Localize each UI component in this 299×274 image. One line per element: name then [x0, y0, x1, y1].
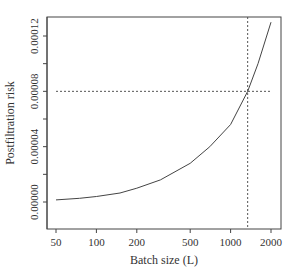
- x-tick-label: 200: [129, 236, 146, 248]
- chart: 0.000000.000040.000080.00012 50100200500…: [0, 0, 299, 274]
- y-tick-label: 0.00012: [28, 18, 40, 54]
- plot-frame: [47, 17, 281, 229]
- x-axis: 5010020050010002000: [51, 229, 283, 248]
- y-tick-label: 0.00008: [28, 73, 40, 109]
- x-tick-label: 500: [182, 236, 199, 248]
- x-tick-label: 1000: [220, 236, 243, 248]
- x-axis-title: Batch size (L): [130, 253, 198, 267]
- y-axis-title: Postfiltration risk: [3, 81, 17, 165]
- y-tick-label: 0.00000: [28, 184, 40, 220]
- x-tick-label: 2000: [260, 236, 283, 248]
- y-axis: 0.000000.000040.000080.00012: [28, 17, 47, 229]
- risk-curve-line: [56, 22, 271, 200]
- y-tick-label: 0.00004: [28, 128, 40, 164]
- x-tick-label: 100: [88, 236, 105, 248]
- x-tick-label: 50: [51, 236, 63, 248]
